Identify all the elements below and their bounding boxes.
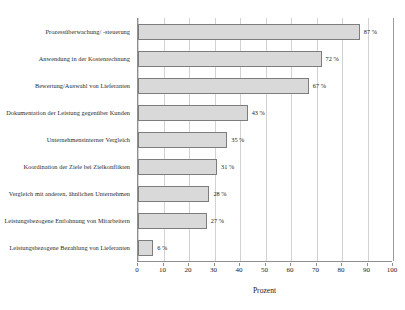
- x-tick-label: 100: [387, 266, 398, 275]
- bar: [138, 213, 207, 229]
- category-label: Dokumentation der Leistung gegenüber Kun…: [0, 109, 133, 117]
- bar-value-label: 27 %: [211, 216, 224, 225]
- plot-area: 87 %72 %67 %43 %35 %31 %28 %27 %6 %: [137, 18, 392, 262]
- category-label-column: Prozessüberwachung/ -steuerungAnwendung …: [0, 18, 133, 262]
- bar: [138, 105, 248, 121]
- x-tick-label: 90: [363, 266, 370, 275]
- bar: [138, 51, 322, 67]
- bar-row: 28 %: [138, 186, 393, 202]
- category-label: Prozessüberwachung/ -steuerung: [0, 28, 133, 36]
- bar-row: 87 %: [138, 24, 393, 40]
- x-tick-label: 0: [135, 266, 139, 275]
- x-tick-label: 40: [236, 266, 243, 275]
- bar-value-label: 67 %: [313, 81, 326, 90]
- category-label: Anwendung in der Kostenrechnung: [0, 55, 133, 63]
- bar-value-label: 72 %: [326, 54, 339, 63]
- bar-value-label: 31 %: [221, 162, 234, 171]
- bar: [138, 159, 217, 175]
- bar-row: 6 %: [138, 240, 393, 256]
- bar-row: 43 %: [138, 105, 393, 121]
- bar: [138, 78, 309, 94]
- bar-value-label: 6 %: [157, 243, 167, 252]
- x-axis-title: Prozent: [137, 286, 392, 295]
- x-axis-ticks: 0102030405060708090100: [137, 263, 392, 275]
- bar-value-label: 28 %: [213, 189, 226, 198]
- bar-value-label: 35 %: [231, 135, 244, 144]
- bar-value-label: 87 %: [364, 27, 377, 36]
- bar: [138, 240, 153, 256]
- bar-chart: Prozessüberwachung/ -steuerungAnwendung …: [0, 0, 405, 310]
- category-label: Leistungsbezogene Entlohnung von Mitarbe…: [0, 217, 133, 225]
- bar-row: 35 %: [138, 132, 393, 148]
- bar-value-label: 43 %: [252, 108, 265, 117]
- x-tick-label: 70: [312, 266, 319, 275]
- bar-row: 31 %: [138, 159, 393, 175]
- bar: [138, 186, 209, 202]
- bar: [138, 132, 227, 148]
- category-label: Leistungsbezogene Bezahlung von Lieferan…: [0, 244, 133, 252]
- gridline: [393, 18, 394, 261]
- category-label: Unternehmensinterner Vergleich: [0, 136, 133, 144]
- x-tick-label: 50: [261, 266, 268, 275]
- x-tick-label: 80: [338, 266, 345, 275]
- x-tick-label: 60: [287, 266, 294, 275]
- bar: [138, 24, 360, 40]
- x-tick-label: 20: [185, 266, 192, 275]
- category-label: Koordination der Ziele bei Zielkonflikte…: [0, 163, 133, 171]
- category-label: Bewertung/Auswahl von Lieferanten: [0, 82, 133, 90]
- x-tick-label: 10: [159, 266, 166, 275]
- bar-row: 27 %: [138, 213, 393, 229]
- chart-top-margin: [0, 0, 405, 12]
- x-tick-label: 30: [210, 266, 217, 275]
- category-label: Vergleich mit anderen, ähnlichen Unterne…: [0, 190, 133, 198]
- bar-row: 72 %: [138, 51, 393, 67]
- bar-row: 67 %: [138, 78, 393, 94]
